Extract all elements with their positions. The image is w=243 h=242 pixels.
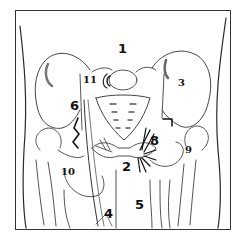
- label-3: 3: [178, 78, 185, 88]
- body-outline-left: [20, 26, 26, 228]
- label-11: 11: [83, 75, 97, 85]
- label-2: 2: [122, 160, 131, 173]
- label-9: 9: [185, 145, 192, 155]
- label-5: 5: [135, 198, 144, 211]
- label-4: 4: [104, 207, 113, 220]
- label-8: 8: [150, 134, 159, 147]
- body-outline-right: [217, 18, 226, 228]
- label-10: 10: [61, 167, 75, 177]
- label-1: 1: [118, 42, 127, 55]
- pelvis-drawing: [0, 0, 243, 242]
- label-6: 6: [70, 99, 79, 112]
